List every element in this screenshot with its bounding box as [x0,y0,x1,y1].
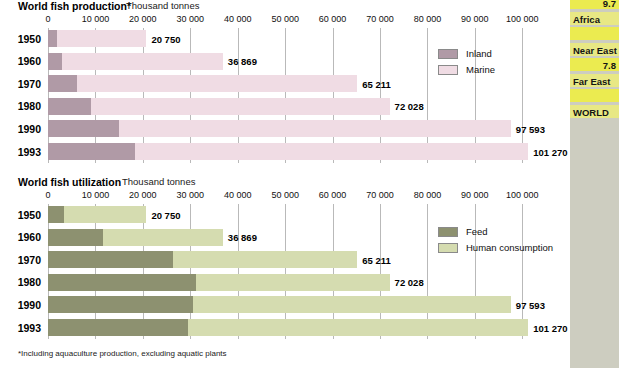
y-axis-category-label: 1960 [18,55,41,67]
bar-value-label: 20 750 [146,209,180,220]
bar-value-label: 101 270 [528,146,567,157]
y-axis-category-label: 1980 [18,100,41,112]
bar-value-label: 65 211 [357,254,391,265]
bar-segment-human-consumption [64,206,147,223]
bar-row: 198072 028 [48,98,546,115]
x-axis-tick-label: 20 000 [129,14,157,24]
y-axis-category-label: 1993 [18,146,41,158]
infographic-page: World fish production*Thousand tonnes010… [0,0,619,368]
x-axis-tick-label: 90 000 [461,14,489,24]
chart-unit-label: Thousand tonnes [122,176,195,187]
bar-segment-marine [91,98,390,115]
y-axis-category-label: 1990 [18,123,41,135]
bar-segment-marine [135,143,528,160]
bar-value-label: 101 270 [528,322,567,333]
bar-value-label: 20 750 [146,33,180,44]
x-axis-tick-label: 60 000 [319,190,347,200]
y-axis-category-label: 1970 [18,78,41,90]
x-axis-tick-label: 30 000 [177,14,205,24]
bar-value-label: 65 211 [357,78,391,89]
bar-value-label: 97 593 [511,123,545,134]
bar-segment-feed [48,274,196,291]
chart-title: World fish production* [18,0,131,12]
bar-segment-inland [48,30,57,47]
legend-swatch-inland [438,49,458,59]
legend-label: Feed [466,226,488,238]
x-axis-tick-label: 20 000 [129,190,157,200]
x-axis-tick-label: 70 000 [366,14,394,24]
bar-value-label: 72 028 [390,277,424,288]
bar-segment-marine [119,120,511,137]
x-axis-tick-label: 50 000 [271,190,299,200]
bar-segment-inland [48,75,77,92]
legend-swatch-marine [438,65,458,75]
charts-container: World fish production*Thousand tonnes010… [0,0,570,368]
bar-row: 198072 028 [48,274,546,291]
x-axis-tick-label: 10 000 [82,190,110,200]
side-table-label: Africa [570,14,619,25]
chart-footnote: *Including aquaculture production, exclu… [18,349,227,358]
side-table-label: Far East [570,76,619,87]
side-table-value: 7.8 [570,60,619,71]
y-axis-category-label: 1950 [18,209,41,221]
x-axis-tick-label: 30 000 [177,190,205,200]
x-axis-tick-label: 40 000 [224,14,252,24]
x-axis-tick-label: 70 000 [366,190,394,200]
bar-segment-feed [48,319,188,336]
bar-row: 195020 750 [48,206,546,223]
side-table-row-band [570,89,619,102]
bar-segment-marine [77,75,357,92]
legend-swatch-human-consumption [438,243,458,253]
x-axis-tick-label: 60 000 [319,14,347,24]
bar-row: 199097 593 [48,120,546,137]
chart-unit-label: Thousand tonnes [126,0,199,11]
bar-value-label: 36 869 [223,232,257,243]
x-axis-tick-label: 10 000 [82,14,110,24]
bar-segment-human-consumption [196,274,389,291]
side-table-value: 9.7 [570,0,619,9]
bar-segment-human-consumption [188,319,528,336]
bar-segment-human-consumption [173,251,358,268]
x-axis-tick-label: 80 000 [414,190,442,200]
bar-segment-feed [48,251,173,268]
legend-swatch-feed [438,227,458,237]
x-axis-tick-label: 90 000 [461,190,489,200]
legend-label: Inland [466,48,492,60]
bar-value-label: 72 028 [390,101,424,112]
bar-segment-human-consumption [193,296,511,313]
x-axis-tick-label: 100 000 [506,190,539,200]
y-axis-category-label: 1970 [18,254,41,266]
bar-segment-marine [62,53,223,70]
legend-label: Human consumption [466,242,553,254]
legend-label: Marine [466,64,495,76]
side-table-label: Near East [570,45,619,56]
bar-segment-marine [57,30,146,47]
x-axis-tick-label: 40 000 [224,190,252,200]
bar-row: 199097 593 [48,296,546,313]
x-axis-tick-label: 0 [45,14,50,24]
plot-area: 010 00020 00030 00040 00050 00060 00070 … [48,190,546,342]
plot-area: 010 00020 00030 00040 00050 00060 00070 … [48,14,546,166]
bar-segment-human-consumption [103,229,223,246]
bar-segment-inland [48,143,135,160]
side-table-row-band [570,27,619,40]
bar-segment-inland [48,120,119,137]
x-axis-tick-label: 0 [45,190,50,200]
bar-value-label: 36 869 [223,56,257,67]
bar-segment-feed [48,229,103,246]
bar-row: 197065 211 [48,75,546,92]
bar-segment-inland [48,53,62,70]
bar-row: 195020 750 [48,30,546,47]
y-axis-category-label: 1950 [18,33,41,45]
bar-value-label: 97 593 [511,299,545,310]
y-axis-category-label: 1980 [18,276,41,288]
x-axis-tick-label: 80 000 [414,14,442,24]
bar-segment-inland [48,98,91,115]
x-axis-tick-label: 50 000 [271,14,299,24]
adjacent-table-strip: 9.7AfricaNear East7.8Far EastWORLD [570,0,619,368]
side-table-label: WORLD [570,107,619,118]
x-axis-tick-label: 100 000 [506,14,539,24]
bar-row: 1993101 270 [48,143,546,160]
bar-row: 1993101 270 [48,319,546,336]
y-axis-category-label: 1960 [18,231,41,243]
